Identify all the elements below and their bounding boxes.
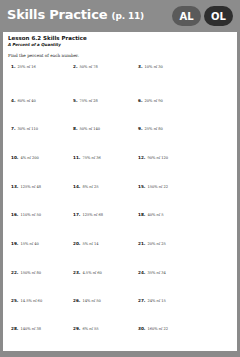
problem-number: 2. [73, 64, 78, 69]
problem-number: 8. [73, 126, 78, 131]
badge-ol: OL [204, 6, 233, 26]
problem-text: 125% of 48 [20, 185, 41, 189]
problem-item: 21.20% of 25 [138, 241, 166, 246]
problem-text: 150% of 22 [147, 185, 168, 189]
problem-text: 14% of 50 [82, 299, 100, 303]
problem-item: 11.75% of 36 [73, 155, 101, 160]
problem-number: 20. [73, 241, 80, 246]
problem-text: 160% of 22 [147, 327, 168, 331]
problem-number: 27. [138, 298, 145, 303]
problem-number: 5. [73, 98, 78, 103]
problem-text: 4.5% of 60 [82, 271, 101, 275]
problem-text: 25% of 80 [145, 127, 163, 131]
problem-number: 21. [138, 241, 145, 246]
problem-text: 75% of 36 [82, 156, 100, 160]
problem-item: 9.25% of 80 [138, 126, 163, 131]
problem-item: 30.160% of 22 [138, 326, 168, 331]
problem-number: 3. [138, 64, 143, 69]
problem-text: 150% of 80 [20, 271, 41, 275]
problem-number: 14. [73, 184, 80, 189]
problem-item: 24.35% of 34 [138, 270, 166, 275]
problem-number: 18. [138, 212, 145, 217]
problem-text: 8% of 25 [82, 185, 98, 189]
problem-text: 4% of 200 [20, 156, 38, 160]
problem-number: 15. [138, 184, 145, 189]
problem-item: 16.110% of 50 [11, 212, 41, 217]
problem-text: 110% of 50 [20, 213, 41, 217]
problem-text: 5% of 14 [82, 242, 98, 246]
problem-item: 19.15% of 40 [11, 241, 39, 246]
problem-number: 7. [11, 126, 16, 131]
problem-text: 90% of 120 [147, 156, 168, 160]
problem-item: 14.8% of 25 [73, 184, 98, 189]
problem-text: 40% of 5 [147, 213, 163, 217]
lesson-title: Lesson 6.2 Skills Practice [8, 35, 87, 41]
problem-number: 13. [11, 184, 18, 189]
problem-number: 23. [73, 270, 80, 275]
problem-text: 50% of 78 [80, 65, 98, 69]
problem-item: 12.90% of 120 [138, 155, 168, 160]
problem-text: 50% of 140 [80, 127, 101, 131]
problem-item: 10.4% of 200 [11, 155, 39, 160]
problem-number: 30. [138, 326, 145, 331]
problem-text: 20% of 25 [147, 242, 165, 246]
problem-number: 10. [11, 155, 18, 160]
problem-number: 16. [11, 212, 18, 217]
worksheet-page: Lesson 6.2 Skills Practice A Percent of … [3, 32, 237, 351]
problem-text: 14.5% of 60 [20, 299, 42, 303]
problem-number: 11. [73, 155, 80, 160]
problem-number: 25. [11, 298, 18, 303]
problem-item: 27.24% of 15 [138, 298, 166, 303]
problem-item: 20.5% of 14 [73, 241, 98, 246]
problem-item: 17.125% of 68 [73, 212, 103, 217]
problem-item: 26.14% of 50 [73, 298, 101, 303]
problem-item: 3.10% of 30 [138, 64, 163, 69]
problem-text: 30% of 110 [18, 127, 39, 131]
problem-item: 23.4.5% of 60 [73, 270, 102, 275]
page-title: Skills Practice (p. 11) [7, 7, 144, 22]
problem-text: 140% of 38 [20, 327, 41, 331]
problem-text: 15% of 40 [20, 242, 38, 246]
problem-item: 4.60% of 40 [11, 98, 36, 103]
problem-item: 7.30% of 110 [11, 126, 38, 131]
lesson-subtitle: A Percent of a Quantity [8, 42, 61, 47]
problem-item: 22.150% of 80 [11, 270, 41, 275]
problem-item: 5.75% of 28 [73, 98, 98, 103]
problem-number: 28. [11, 326, 18, 331]
problem-number: 12. [138, 155, 145, 160]
problem-number: 26. [73, 298, 80, 303]
badge-al: AL [172, 6, 201, 26]
page-ref: (p. 11) [112, 11, 144, 21]
header-bar: Skills Practice (p. 11) AL OL [0, 0, 240, 32]
problem-item: 28.140% of 38 [11, 326, 41, 331]
problem-text: 75% of 28 [80, 99, 98, 103]
problem-text: 125% of 68 [82, 213, 103, 217]
problem-number: 29. [73, 326, 80, 331]
problem-number: 24. [138, 270, 145, 275]
problem-item: 1.25% of 16 [11, 64, 36, 69]
problem-text: 6% of 55 [82, 327, 98, 331]
problem-item: 6.20% of 90 [138, 98, 163, 103]
problem-item: 18.40% of 5 [138, 212, 163, 217]
problem-item: 29.6% of 55 [73, 326, 98, 331]
instructions: Find the percent of each number. [8, 53, 79, 58]
problem-item: 13.125% of 48 [11, 184, 41, 189]
problem-text: 25% of 16 [18, 65, 36, 69]
problem-number: 6. [138, 98, 143, 103]
problem-number: 4. [11, 98, 16, 103]
problem-text: 10% of 30 [145, 65, 163, 69]
problem-text: 35% of 34 [147, 271, 165, 275]
problem-text: 20% of 90 [145, 99, 163, 103]
problem-item: 25.14.5% of 60 [11, 298, 42, 303]
title-text: Skills Practice [7, 7, 107, 22]
problem-text: 60% of 40 [18, 99, 36, 103]
problem-item: 2.50% of 78 [73, 64, 98, 69]
problem-number: 1. [11, 64, 16, 69]
problem-number: 19. [11, 241, 18, 246]
problem-item: 8.50% of 140 [73, 126, 100, 131]
problem-number: 9. [138, 126, 143, 131]
problem-text: 24% of 15 [147, 299, 165, 303]
problem-number: 22. [11, 270, 18, 275]
problem-item: 15.150% of 22 [138, 184, 168, 189]
problem-number: 17. [73, 212, 80, 217]
